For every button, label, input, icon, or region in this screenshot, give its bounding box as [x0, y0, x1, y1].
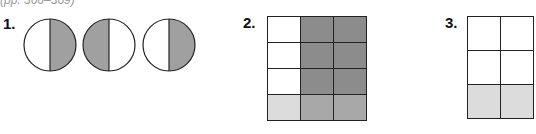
exercise-3-grid — [468, 17, 534, 119]
grid-cell — [468, 17, 501, 51]
half-shaded-circle — [83, 19, 135, 71]
grid-cell — [501, 17, 534, 51]
grid-cell — [468, 85, 501, 119]
grid-cell — [301, 69, 334, 95]
grid-cell — [501, 85, 534, 119]
grid-cell — [301, 17, 334, 43]
grid-cell — [334, 95, 367, 121]
grid-cell — [268, 17, 301, 43]
grid-cell — [268, 95, 301, 121]
grid-cell — [334, 69, 367, 95]
grid-cell — [301, 95, 334, 121]
grid-cell — [334, 43, 367, 69]
half-shaded-circle — [143, 19, 195, 71]
exercise-2-grid — [268, 17, 367, 121]
grid-cell — [501, 51, 534, 85]
exercise-figures — [0, 0, 536, 134]
grid-cell — [468, 51, 501, 85]
exercise-1-circles — [24, 19, 195, 71]
grid-cell — [301, 43, 334, 69]
grid-cell — [334, 17, 367, 43]
grid-cell — [268, 69, 301, 95]
half-shaded-circle — [24, 19, 76, 71]
grid-cell — [268, 43, 301, 69]
